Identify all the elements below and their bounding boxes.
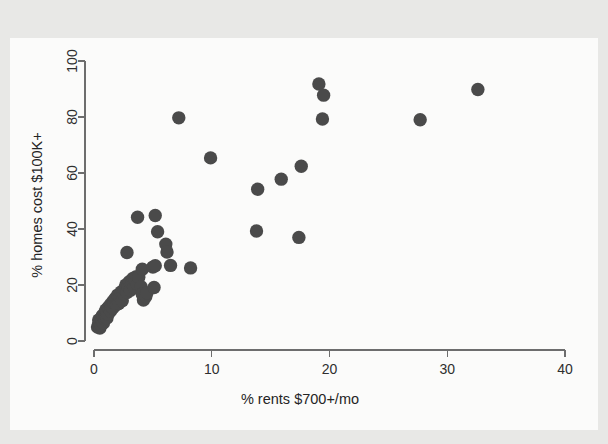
data-point [275,172,288,185]
x-tick-label: 40 [557,361,573,377]
data-point [172,111,185,124]
y-tick-label: 0 [64,337,80,345]
x-axis-ticks: 010203040 [90,350,573,377]
data-point [120,246,133,259]
x-tick-label: 20 [322,361,338,377]
data-point [413,113,426,126]
data-point [164,259,177,272]
data-point [149,259,162,272]
data-point [250,224,263,237]
y-tick-label: 100 [64,49,80,73]
data-point [149,209,162,222]
scanned-page: 010203040 020406080100 % rents $700+/mo … [0,0,608,444]
x-tick-label: 30 [439,361,455,377]
y-tick-label: 40 [64,221,80,237]
data-points-layer [91,77,485,335]
data-point [295,160,308,173]
x-tick-label: 10 [204,361,220,377]
data-point [471,83,484,96]
x-tick-label: 0 [90,361,98,377]
y-axis-ticks: 020406080100 [64,49,85,345]
data-point [317,88,330,101]
data-point [131,211,144,224]
x-axis-title: % rents $700+/mo [241,391,359,407]
data-point [147,281,160,294]
data-point [184,261,197,274]
data-point [151,225,164,238]
data-point [160,245,173,258]
y-tick-label: 20 [64,277,80,293]
y-tick-label: 80 [64,109,80,125]
data-point [316,112,329,125]
data-point [251,183,264,196]
y-axis-title: % homes cost $100K+ [29,132,45,278]
data-point [292,231,305,244]
data-point [204,151,217,164]
y-tick-label: 60 [64,165,80,181]
scatter-plot-figure: 010203040 020406080100 % rents $700+/mo … [0,0,608,444]
